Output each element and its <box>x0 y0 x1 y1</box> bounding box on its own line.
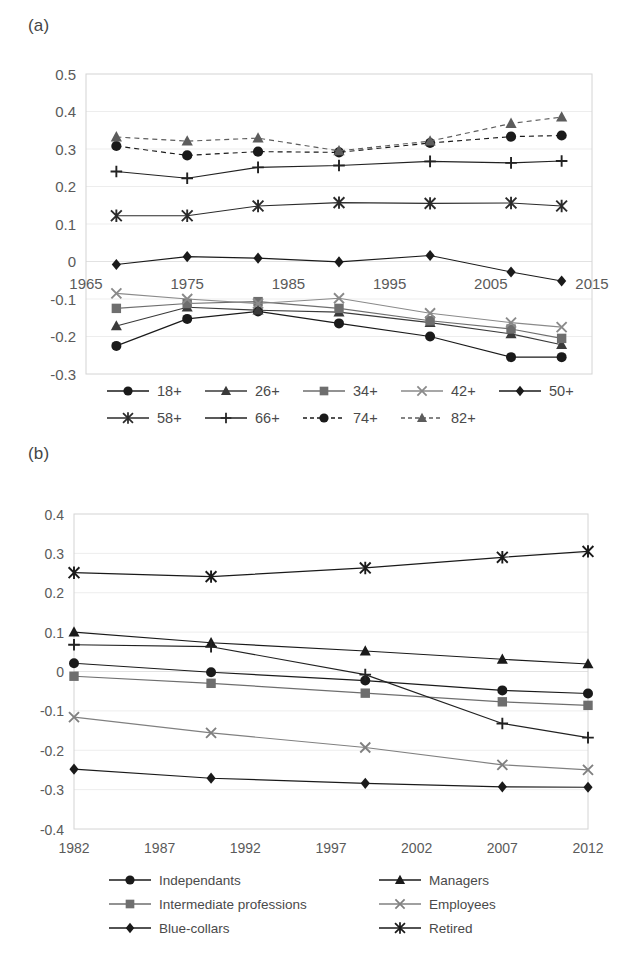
x-tick-label: 1982 <box>58 840 89 856</box>
legend-label: 82+ <box>451 410 476 426</box>
x-tick-label: 2015 <box>575 275 608 292</box>
legend-label: 66+ <box>255 410 280 426</box>
legend-label: Intermediate professions <box>159 897 307 912</box>
legend-item-34-[interactable]: 34+ <box>303 383 378 399</box>
x-tick-label: 1965 <box>69 275 102 292</box>
marker-square <box>498 697 507 706</box>
marker-diamond <box>69 764 78 775</box>
legend-item-intermediate-professions[interactable]: Intermediate professions <box>109 897 307 912</box>
legend-label: Retired <box>429 921 473 936</box>
marker-square <box>69 672 78 681</box>
marker-diamond <box>334 256 343 267</box>
marker-circle <box>69 658 79 668</box>
legend-item-managers[interactable]: Managers <box>379 873 489 888</box>
marker-square <box>112 304 121 313</box>
legend-item-82-[interactable]: 82+ <box>401 410 476 426</box>
y-tick-label: 0.3 <box>45 546 65 562</box>
series-line <box>74 632 588 664</box>
x-tick-label: 2002 <box>401 840 432 856</box>
legend-label: Independants <box>159 873 241 888</box>
legend-item-50-[interactable]: 50+ <box>499 383 574 399</box>
marker-diamond <box>206 773 215 784</box>
legend-label: 58+ <box>157 410 182 426</box>
legend-label: 34+ <box>353 383 378 399</box>
y-tick-label: 0.1 <box>45 625 65 641</box>
y-tick-label: 0.2 <box>45 585 65 601</box>
y-tick-label: -0.2 <box>50 328 76 345</box>
marker-plus <box>333 160 345 172</box>
marker-triangle <box>395 875 405 884</box>
legend-item-retired[interactable]: Retired <box>379 921 473 936</box>
legend-label: 42+ <box>451 383 476 399</box>
x-tick-label: 2012 <box>572 840 603 856</box>
x-tick-label: 1987 <box>144 840 175 856</box>
series-line <box>74 551 588 576</box>
marker-circle <box>125 875 134 884</box>
y-tick-label: 0.4 <box>55 103 76 120</box>
chart-panel-a: (a) -0.3-0.2-0.100.10.20.30.40.519651975… <box>0 0 634 440</box>
marker-plus <box>252 162 264 174</box>
marker-diamond <box>557 275 566 286</box>
marker-plus <box>582 732 594 744</box>
series-line <box>74 769 588 787</box>
legend-item-58-[interactable]: 58+ <box>107 410 182 426</box>
marker-plus <box>424 156 436 168</box>
series-blue-collars <box>69 764 592 793</box>
marker-triangle <box>556 111 567 121</box>
marker-circle <box>123 386 132 395</box>
marker-plus <box>68 639 80 651</box>
y-tick-label: 0.1 <box>55 216 76 233</box>
legend-item-66-[interactable]: 66+ <box>205 410 280 426</box>
y-tick-label: 0.4 <box>45 507 65 523</box>
legend-item-employees[interactable]: Employees <box>379 897 496 912</box>
series-66- <box>111 155 568 184</box>
marker-circle <box>583 689 593 699</box>
legend-label: 50+ <box>549 383 574 399</box>
marker-diamond <box>183 251 192 262</box>
marker-square <box>126 900 135 909</box>
y-tick-label: -0.2 <box>40 743 64 759</box>
marker-plus <box>221 413 232 424</box>
chart-panel-b: (b) -0.4-0.3-0.2-0.100.10.20.30.41982198… <box>0 440 634 954</box>
series-retired <box>69 545 594 583</box>
y-tick-label: -0.4 <box>40 822 64 838</box>
marker-square <box>334 304 343 313</box>
legend-label: Employees <box>429 897 496 912</box>
marker-diamond <box>498 781 507 792</box>
legend-item-blue-collars[interactable]: Blue-collars <box>109 921 230 936</box>
legend-label: 26+ <box>255 383 280 399</box>
marker-circle <box>497 685 507 695</box>
y-tick-label: -0.3 <box>50 366 76 383</box>
legend-label: Blue-collars <box>159 921 230 936</box>
series-line <box>74 663 588 693</box>
legend-item-18-[interactable]: 18+ <box>107 383 182 399</box>
marker-square <box>206 679 215 688</box>
legend-label: 18+ <box>157 383 182 399</box>
chart-b-svg: -0.4-0.3-0.2-0.100.10.20.30.419821987199… <box>0 440 634 954</box>
marker-circle <box>253 147 263 157</box>
series-managers <box>68 626 593 668</box>
marker-circle <box>206 667 216 677</box>
x-tick-label: 1992 <box>230 840 261 856</box>
marker-plus <box>556 155 568 167</box>
marker-plus <box>505 157 517 169</box>
marker-square <box>361 688 370 697</box>
marker-circle <box>425 332 435 342</box>
series-employees <box>69 712 593 775</box>
legend-item-26-[interactable]: 26+ <box>205 383 280 399</box>
legend-item-42-[interactable]: 42+ <box>401 383 476 399</box>
y-tick-label: -0.1 <box>50 291 76 308</box>
y-tick-label: 0 <box>56 664 64 680</box>
marker-diamond <box>253 253 262 264</box>
legend-label: Managers <box>429 873 489 888</box>
marker-diamond <box>516 386 524 396</box>
marker-diamond <box>506 266 515 277</box>
marker-circle <box>182 150 192 160</box>
series-independants <box>69 658 593 698</box>
marker-diamond <box>361 778 370 789</box>
marker-plus <box>497 718 509 730</box>
x-tick-label: 1995 <box>373 275 406 292</box>
legend-item-independants[interactable]: Independants <box>109 873 241 888</box>
marker-triangle <box>221 386 231 395</box>
legend-item-74-[interactable]: 74+ <box>303 410 378 426</box>
